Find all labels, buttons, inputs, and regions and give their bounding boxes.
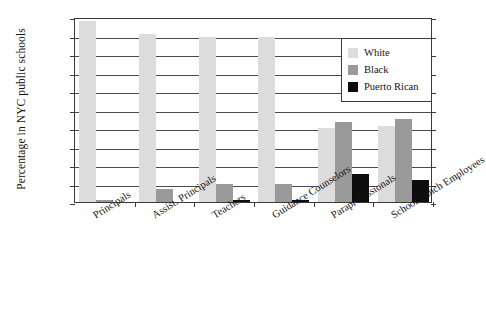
bar-white (258, 37, 275, 202)
bar-group (194, 17, 254, 202)
bar-black (395, 119, 412, 202)
bar-group (254, 17, 314, 202)
legend-item-puerto-rican: Puerto Rican (348, 78, 425, 95)
bar-white (139, 34, 156, 202)
legend-item-black: Black (348, 61, 425, 78)
bar-black (335, 122, 352, 202)
x-axis-tick (194, 202, 195, 207)
x-axis-tick (135, 202, 136, 207)
bar-group (75, 17, 135, 202)
legend-label-white: White (364, 47, 390, 58)
y-axis-title: Percentage in NYC public schools (15, 14, 27, 204)
legend-label-black: Black (364, 64, 389, 75)
x-axis-tick (254, 202, 255, 207)
chart-legend: White Black Puerto Rican (341, 38, 432, 102)
legend-swatch-white-icon (348, 48, 358, 58)
y-axis-tick (70, 204, 75, 205)
x-axis-tick (433, 202, 434, 207)
x-axis-tick (373, 202, 374, 207)
x-axis-tick (314, 202, 315, 207)
legend-label-puerto-rican: Puerto Rican (364, 81, 419, 92)
legend-swatch-puerto-rican-icon (348, 82, 358, 92)
legend-item-white: White (348, 44, 425, 61)
bar-white (79, 21, 96, 202)
legend-swatch-black-icon (348, 65, 358, 75)
bar-group (135, 17, 195, 202)
